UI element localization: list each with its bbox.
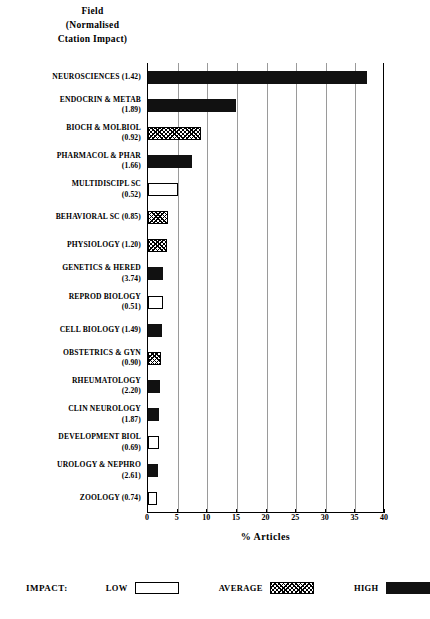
category-label-line1: MULTIDISCIPL SC xyxy=(0,179,141,190)
x-tick-text: 20 xyxy=(262,513,270,522)
bar-row xyxy=(148,147,384,175)
x-tick-text: 5 xyxy=(175,513,179,522)
category-label-line1: CELL BIOLOGY (1.49) xyxy=(0,325,141,336)
bar-urology-nephro xyxy=(148,464,158,477)
x-tick-label-0: 0 xyxy=(145,513,149,522)
legend: IMPACT: LOW AVERAGE HIGH xyxy=(26,578,386,598)
x-tick-text: 30 xyxy=(321,513,329,522)
x-tick-text: 35 xyxy=(350,513,358,522)
bar-row xyxy=(148,429,384,457)
x-tick-text: 10 xyxy=(202,513,210,522)
category-label: BEHAVIORAL SC (0.85) xyxy=(0,212,141,223)
bar-bioch-molbiol xyxy=(148,127,201,140)
bar-row xyxy=(148,401,384,429)
category-label-line1: BIOCH & MOLBIOL xyxy=(0,123,141,134)
x-tick-label-15: 15 xyxy=(232,513,240,522)
x-tick-mark xyxy=(147,509,148,513)
x-tick-text: 25 xyxy=(291,513,299,522)
bar-row xyxy=(148,457,384,485)
x-tick-mark xyxy=(325,509,326,513)
plot-area xyxy=(147,63,384,513)
bar-row xyxy=(148,372,384,400)
bar-row xyxy=(148,91,384,119)
bar-reprod-biology xyxy=(148,296,163,309)
category-label: OBSTETRICS & GYN(0.90) xyxy=(0,348,141,369)
category-label: ZOOLOGY (0.74) xyxy=(0,493,141,504)
category-label-line2: (3.74) xyxy=(0,274,141,285)
x-tick-text: 40 xyxy=(380,513,388,522)
x-tick-mark xyxy=(177,509,178,513)
x-tick-label-10: 10 xyxy=(202,513,210,522)
legend-item-high: HIGH xyxy=(354,582,430,594)
category-label-line2: (1.87) xyxy=(0,415,141,426)
bar-development-biol xyxy=(148,436,159,449)
legend-item-average: AVERAGE xyxy=(219,582,314,594)
category-label-line1: DEVELOPMENT BIOL xyxy=(0,432,141,443)
x-tick-mark xyxy=(384,509,385,513)
category-label: UROLOGY & NEPHRO(2.61) xyxy=(0,460,141,481)
x-tick-mark xyxy=(354,509,355,513)
x-tick-mark xyxy=(236,509,237,513)
category-label-line1: RHEUMATOLOGY xyxy=(0,376,141,387)
category-label-line2: (0.92) xyxy=(0,133,141,144)
category-label-line1: CLIN NEUROLOGY xyxy=(0,404,141,415)
bar-row xyxy=(148,204,384,232)
bar-clin-neurology xyxy=(148,408,159,421)
chart-header: Field (Normalised Ctation Impact) xyxy=(0,4,185,46)
category-label-line1: PHARMACOL & PHAR xyxy=(0,151,141,162)
legend-label-high: HIGH xyxy=(354,583,379,593)
category-label: PHARMACOL & PHAR(1.66) xyxy=(0,151,141,172)
x-axis-title: % Articles xyxy=(147,531,384,542)
bar-rows xyxy=(148,63,384,512)
bar-neurosciences xyxy=(148,71,367,84)
category-label: DEVELOPMENT BIOL(0.69) xyxy=(0,432,141,453)
bar-rheumatology xyxy=(148,380,160,393)
legend-swatch-high xyxy=(386,582,430,594)
category-label: NEUROSCIENCES (1.42) xyxy=(0,72,141,83)
x-tick-label-20: 20 xyxy=(262,513,270,522)
legend-label-low: LOW xyxy=(106,583,128,593)
category-label-line2: (0.69) xyxy=(0,443,141,454)
category-label: BIOCH & MOLBIOL(0.92) xyxy=(0,123,141,144)
category-label-line1: BEHAVIORAL SC (0.85) xyxy=(0,212,141,223)
category-label: REPROD BIOLOGY(0.51) xyxy=(0,292,141,313)
category-label-line1: ZOOLOGY (0.74) xyxy=(0,493,141,504)
category-label: ENDOCRIN & METAB(1.89) xyxy=(0,95,141,116)
bar-endocrin-metab xyxy=(148,99,236,112)
bar-row xyxy=(148,288,384,316)
bar-behavioral-sc xyxy=(148,211,168,224)
category-label-line1: PHYSIOLOGY (1.20) xyxy=(0,240,141,251)
bar-genetics-hered xyxy=(148,267,163,280)
x-tick-mark xyxy=(266,509,267,513)
category-label: GENETICS & HERED(3.74) xyxy=(0,263,141,284)
category-label: PHYSIOLOGY (1.20) xyxy=(0,240,141,251)
x-tick-mark xyxy=(206,509,207,513)
category-label: MULTIDISCIPL SC(0.52) xyxy=(0,179,141,200)
legend-swatch-average xyxy=(270,582,314,594)
bar-row xyxy=(148,63,384,91)
bar-row xyxy=(148,316,384,344)
bar-multidiscipl-sc xyxy=(148,183,178,196)
header-line-2: (Normalised xyxy=(0,18,185,32)
category-label-line1: OBSTETRICS & GYN xyxy=(0,348,141,359)
bar-zoology xyxy=(148,492,157,505)
bar-cell-biology xyxy=(148,324,162,337)
category-label-line1: ENDOCRIN & METAB xyxy=(0,95,141,106)
category-label-line2: (0.51) xyxy=(0,302,141,313)
x-tick-label-35: 35 xyxy=(350,513,358,522)
legend-title: IMPACT: xyxy=(26,583,68,593)
x-tick-label-5: 5 xyxy=(175,513,179,522)
header-line-3: Ctation Impact) xyxy=(0,32,185,46)
category-label-line1: UROLOGY & NEPHRO xyxy=(0,460,141,471)
category-label-line2: (2.61) xyxy=(0,471,141,482)
x-tick-label-30: 30 xyxy=(321,513,329,522)
category-label-line2: (0.90) xyxy=(0,358,141,369)
legend-swatch-low xyxy=(135,582,179,594)
bar-row xyxy=(148,119,384,147)
category-label-line2: (0.52) xyxy=(0,190,141,201)
category-label-line1: NEUROSCIENCES (1.42) xyxy=(0,72,141,83)
x-axis-ticks: 0510152025303540 xyxy=(147,513,384,529)
bar-obstetrics-gyn xyxy=(148,352,161,365)
category-label: CLIN NEUROLOGY(1.87) xyxy=(0,404,141,425)
